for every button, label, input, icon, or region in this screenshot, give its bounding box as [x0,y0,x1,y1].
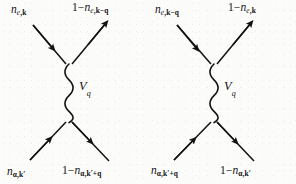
label-top-right-prefix: 1− [228,1,240,13]
label-top-left: ne,k [11,4,26,16]
label-bottom-left: nα,k′ [7,166,25,178]
leg-bottom-left-arrow [174,140,194,161]
label-bottom-right-sub-rest: ,k′+q [85,169,102,178]
diagram-right-graphics [148,0,296,184]
leg-bottom-right-arrow [72,122,91,142]
interaction-label-right: Vq [224,79,236,94]
label-top-left: ne,k−q [155,4,179,16]
interaction-symbol: V [224,79,232,93]
label-bottom-right-prefix: 1− [220,164,232,176]
label-bottom-left-sub-rest: ,k′ [17,170,25,179]
diagram-left: ne,k 1−ne,k−q nα,k′ 1−nα,k′+q Vq [0,0,148,184]
label-top-right: 1−ne,k−q [72,2,108,14]
label-bottom-right-sub-rest: ,k′ [243,169,251,178]
leg-top-right-arrow [88,23,106,45]
leg-top-right-arrow [233,23,251,45]
interaction-symbol: V [79,79,87,93]
leg-top-left-arrow [177,25,197,49]
leg-bottom-right-arrow [217,122,236,142]
interaction-subscript: q [232,89,236,98]
label-top-right-sub-rest: ,k [250,6,256,15]
label-bottom-right: 1−nα,k′+q [62,165,101,177]
label-top-right-prefix: 1− [72,1,84,13]
label-top-right-sub-rest: ,k−q [94,6,109,15]
label-bottom-right-prefix: 1− [62,164,74,176]
interaction-label-left: Vq [79,79,91,94]
label-bottom-left: nα,k′+q [151,165,178,177]
label-top-left-sub-rest: ,k−q [164,8,179,17]
label-top-left-sub-rest: ,k [20,8,26,17]
interaction-wavy-line [65,64,73,123]
interaction-wavy-line [210,64,218,123]
feynman-diagram-figure: ne,k 1−ne,k−q nα,k′ 1−nα,k′+q Vq [0,0,296,184]
label-bottom-left-sub-rest: ,k′+q [161,169,178,178]
leg-top-left-arrow [33,25,53,49]
interaction-subscript: q [87,89,91,98]
diagram-left-graphics [0,0,148,184]
leg-bottom-left-arrow [30,139,50,160]
label-top-right: 1−ne,k [228,2,256,14]
label-bottom-right: 1−nα,k′ [220,165,251,177]
diagram-right: ne,k−q 1−ne,k nα,k′+q 1−nα,k′ Vq [148,0,296,184]
